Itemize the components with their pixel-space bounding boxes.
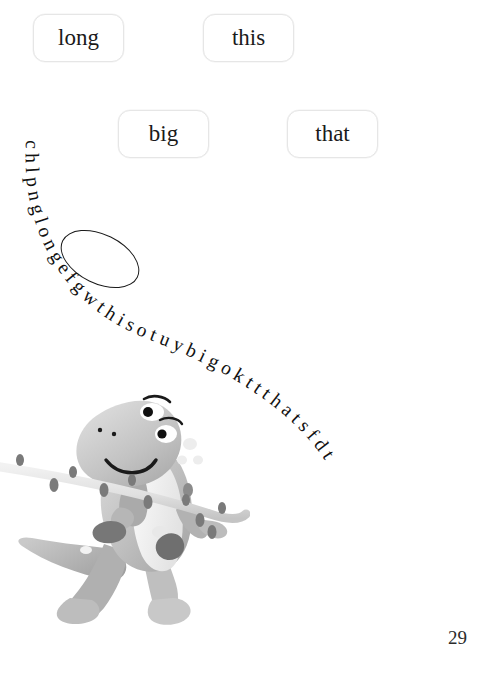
word-box-label: long [58, 25, 99, 51]
word-box-label: big [149, 121, 178, 147]
page-number: 29 [448, 627, 467, 649]
word-box-long[interactable]: long [33, 14, 124, 62]
circled-answer-long [51, 218, 148, 300]
word-box-this[interactable]: this [203, 14, 294, 62]
word-box-that[interactable]: that [287, 110, 378, 158]
dinosaur-illustration [0, 368, 250, 633]
word-box-label: this [232, 25, 265, 51]
word-box-big[interactable]: big [118, 110, 209, 158]
word-box-label: that [315, 121, 350, 147]
